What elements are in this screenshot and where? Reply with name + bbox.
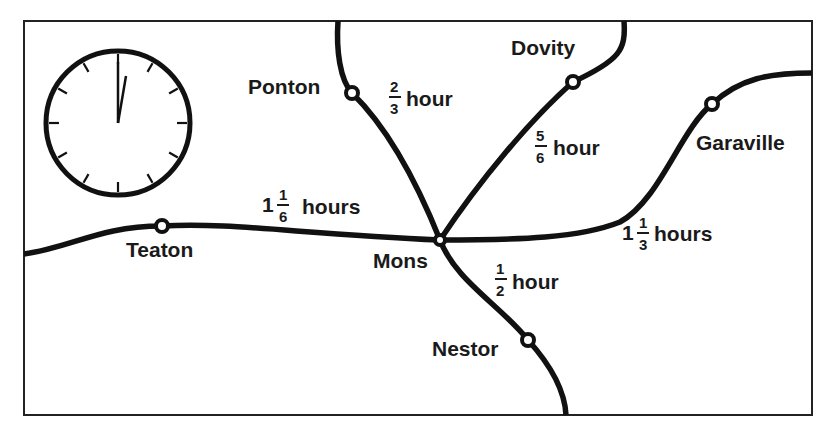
town-label-garaville: Garaville (696, 131, 785, 154)
svg-text:6: 6 (279, 208, 287, 225)
svg-text:3: 3 (390, 100, 398, 117)
svg-text:6: 6 (536, 149, 544, 166)
svg-text:1: 1 (639, 214, 647, 231)
town-label-ponton: Ponton (248, 75, 320, 98)
svg-text:hour: hour (406, 87, 453, 110)
svg-text:2: 2 (496, 282, 504, 299)
town-label-nestor: Nestor (432, 337, 499, 360)
town-label-mons: Mons (373, 249, 428, 272)
clock-icon (46, 51, 190, 195)
svg-text:1: 1 (262, 193, 274, 216)
route-map: Ponton Dovity Garaville Teaton Mons Nest… (0, 0, 818, 431)
svg-text:hours: hours (654, 222, 712, 245)
svg-text:1: 1 (622, 221, 634, 244)
town-label-dovity: Dovity (511, 36, 576, 59)
svg-text:1: 1 (279, 186, 287, 203)
town-marker-nestor[interactable] (522, 334, 534, 346)
town-marker-ponton[interactable] (346, 87, 358, 99)
town-marker-mons[interactable] (435, 235, 445, 245)
svg-text:5: 5 (536, 127, 544, 144)
town-marker-garaville[interactable] (706, 98, 718, 110)
town-marker-dovity[interactable] (567, 76, 579, 88)
svg-text:hour: hour (553, 136, 600, 159)
svg-text:1: 1 (496, 260, 504, 277)
svg-text:hours: hours (302, 195, 360, 218)
svg-text:2: 2 (390, 78, 398, 95)
town-label-teaton: Teaton (126, 238, 193, 261)
town-marker-teaton[interactable] (156, 220, 168, 232)
svg-text:3: 3 (639, 236, 647, 253)
svg-text:hour: hour (512, 270, 559, 293)
